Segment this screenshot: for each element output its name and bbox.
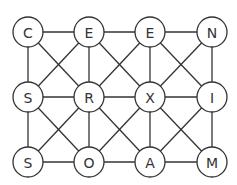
edges: [28, 32, 212, 162]
node-letter: N: [207, 25, 217, 41]
letter-node[interactable]: I: [197, 82, 227, 112]
node-letter: S: [24, 90, 33, 106]
letter-node[interactable]: C: [13, 17, 43, 47]
node-letter: E: [85, 25, 94, 41]
letter-node[interactable]: N: [197, 17, 227, 47]
node-letter: R: [84, 90, 94, 106]
node-letter: E: [146, 25, 155, 41]
letter-node[interactable]: R: [74, 82, 104, 112]
letter-node[interactable]: O: [74, 147, 104, 177]
letter-node[interactable]: S: [13, 82, 43, 112]
node-letter: A: [145, 155, 155, 171]
letter-node[interactable]: E: [74, 17, 104, 47]
letter-grid-canvas: CEENSRXISOAM: [0, 0, 237, 185]
node-letter: O: [83, 155, 94, 171]
node-letter: C: [23, 25, 33, 41]
letter-node[interactable]: X: [135, 82, 165, 112]
node-letter: I: [210, 90, 214, 106]
letter-grid-diagram: CEENSRXISOAM: [0, 0, 237, 185]
letter-node[interactable]: S: [13, 147, 43, 177]
letter-node[interactable]: A: [135, 147, 165, 177]
node-letter: X: [145, 90, 155, 106]
node-letter: M: [206, 155, 218, 171]
letter-node[interactable]: E: [135, 17, 165, 47]
node-letter: S: [24, 155, 33, 171]
letter-node[interactable]: M: [197, 147, 227, 177]
